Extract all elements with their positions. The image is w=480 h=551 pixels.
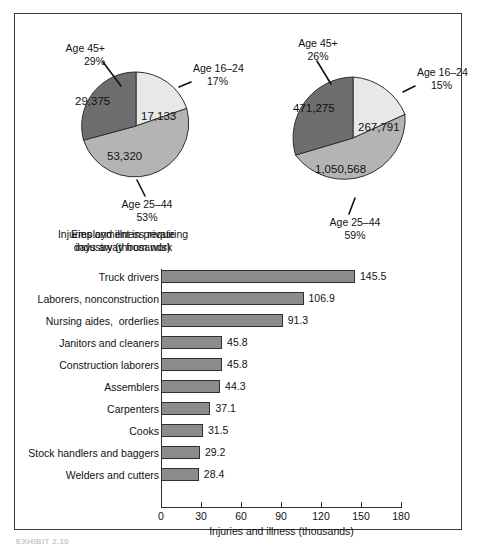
bar-category-label: Construction laborers (59, 359, 159, 372)
leader-line-injuries-45plus (317, 61, 331, 84)
bar-category-label: Carpenters (107, 403, 159, 416)
bar-row: Cooks31.5 (15, 421, 461, 443)
pie-value-injuries-45plus: 471,275 (293, 102, 335, 114)
pie-caption-injuries: Injuries and illness requiring days away… (18, 228, 228, 254)
x-axis-tick-label: 90 (275, 510, 287, 522)
bar-row: Carpenters37.1 (15, 399, 461, 421)
x-axis-tick-label: 30 (195, 510, 207, 522)
x-axis-line (161, 507, 402, 508)
bar-row: Janitors and cleaners45.8 (15, 333, 461, 355)
bar-value-label: 45.8 (227, 358, 247, 371)
bar-value-label: 45.8 (227, 336, 247, 349)
pie-label-injuries-25-44: Age 25–4459% (305, 216, 405, 241)
bar-row: Stock handlers and baggers29.2 (15, 443, 461, 465)
pie-label-employment-25-44: Age 25–4453% (97, 198, 197, 223)
pie-label-injuries-16-24: Age 16–2415% (417, 66, 479, 91)
bar-category-label: Truck drivers (99, 271, 159, 284)
bar-rect (161, 424, 203, 437)
x-axis-tick (241, 502, 242, 507)
bar-rows: Truck drivers145.5Laborers, nonconstruct… (15, 267, 461, 487)
pie-chart-injuries: Age 45+26% Age 16–2415% Age 25–4459% 471… (255, 24, 465, 229)
pie-value-employment-25-44: 53,320 (107, 150, 142, 162)
pie-value-employment-45plus: 29,375 (75, 95, 110, 107)
pie-value-injuries-16-24: 267,791 (358, 121, 400, 133)
pie-label-injuries-45plus-text: Age 45+ (298, 37, 337, 49)
bar-rect (161, 292, 304, 305)
leader-line-injuries-25-44 (349, 198, 355, 214)
pie-label-employment-45plus: Age 45+29% (35, 42, 105, 67)
x-axis-tick-label: 120 (312, 510, 330, 522)
pie-label-injuries-25-44-percent: 59% (344, 229, 365, 241)
bar-row: Truck drivers145.5 (15, 267, 461, 289)
pie-label-employment-25-44-text: Age 25–44 (122, 198, 173, 210)
x-axis-tick (161, 502, 162, 507)
pie-label-employment-16-24-text: Age 16–24 (193, 62, 244, 74)
bar-row: Laborers, nonconstruction106.9 (15, 289, 461, 311)
x-axis-tick-label: 180 (392, 510, 410, 522)
bar-category-label: Stock handlers and baggers (28, 447, 159, 460)
bar-rect (161, 270, 355, 283)
bar-category-label: Janitors and cleaners (59, 337, 159, 350)
leader-line-employment-25-44 (137, 180, 145, 196)
bar-value-label: 145.5 (360, 270, 386, 283)
y-axis-line (161, 269, 162, 508)
pie-label-employment-16-24-percent: 17% (193, 75, 228, 88)
bar-value-label: 29.2 (205, 446, 225, 459)
x-axis-title: Injuries and illness (thousands) (161, 525, 402, 537)
x-axis-tick (281, 502, 282, 507)
bar-category-label: Laborers, nonconstruction (38, 293, 159, 306)
x-axis-tick-label: 0 (158, 510, 164, 522)
pie-label-employment-45plus-percent: 29% (84, 55, 105, 67)
bar-row: Construction laborers45.8 (15, 355, 461, 377)
bar-rect (161, 380, 220, 393)
x-axis-tick (201, 502, 202, 507)
pie-value-injuries-25-44: 1,050,568 (315, 163, 366, 175)
pie-chart-employment: Age 45+29% Age 16–2417% Age 25–4453% 29,… (45, 24, 245, 229)
pie-label-injuries-45plus-percent: 26% (307, 50, 328, 62)
bar-rect (161, 336, 222, 349)
x-axis-tick (401, 502, 402, 507)
exhibit-footer-label: EXHIBIT 2.10 (16, 537, 69, 546)
bar-category-label: Nursing aides, orderlies (46, 315, 159, 328)
bar-chart: Truck drivers145.5Laborers, nonconstruct… (15, 267, 461, 529)
bar-rect (161, 358, 222, 371)
bar-category-label: Welders and cutters (66, 469, 159, 482)
pie-label-injuries-45plus: Age 45+26% (275, 37, 361, 62)
bar-value-label: 31.5 (208, 424, 228, 437)
bar-row: Assemblers44.3 (15, 377, 461, 399)
leader-line-injuries-16-24 (403, 86, 415, 92)
x-axis-tick-label: 150 (352, 510, 370, 522)
bar-value-label: 28.4 (204, 468, 224, 481)
pie-label-employment-16-24: Age 16–2417% (193, 62, 255, 87)
pie-label-injuries-16-24-text: Age 16–24 (417, 66, 468, 78)
pie-label-injuries-25-44-text: Age 25–44 (330, 216, 381, 228)
bar-category-label: Cooks (129, 425, 159, 438)
bar-value-label: 44.3 (225, 380, 245, 393)
bar-rect (161, 314, 283, 327)
bar-value-label: 106.9 (309, 292, 335, 305)
bar-row: Welders and cutters28.4 (15, 465, 461, 487)
x-axis-tick (361, 502, 362, 507)
bar-rect (161, 402, 210, 415)
pie-label-injuries-16-24-percent: 15% (417, 79, 452, 92)
x-axis-tick-label: 60 (235, 510, 247, 522)
bar-value-label: 91.3 (288, 314, 308, 327)
bar-value-label: 37.1 (215, 402, 235, 415)
bar-row: Nursing aides, orderlies91.3 (15, 311, 461, 333)
pie-value-employment-16-24: 17,133 (141, 110, 176, 122)
pie-label-employment-25-44-percent: 53% (136, 211, 157, 223)
pie-label-employment-45plus-text: Age 45+ (66, 42, 105, 54)
leader-line-employment-16-24 (179, 82, 191, 87)
bar-category-label: Assemblers (104, 381, 159, 394)
exhibit-frame: Age 45+29% Age 16–2417% Age 25–4453% 29,… (14, 13, 462, 530)
bar-rect (161, 446, 200, 459)
bar-rect (161, 468, 199, 481)
x-axis-tick (321, 502, 322, 507)
